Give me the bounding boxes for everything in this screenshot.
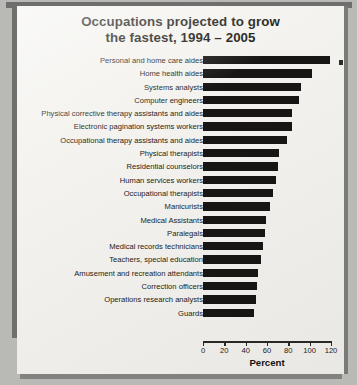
x-axis-label: Percent [203, 357, 331, 368]
bar [203, 122, 292, 130]
category-label: Physical corrective therapy assistants a… [41, 107, 203, 120]
category-label: Home health aides [140, 67, 203, 80]
category-label: Residential counselors [127, 160, 203, 173]
bar-row: Manicurists [17, 200, 344, 213]
bar [203, 309, 254, 317]
bar [203, 295, 256, 303]
category-label: Manicurists [165, 200, 203, 213]
bar-row: Physical corrective therapy assistants a… [17, 107, 344, 120]
x-axis-tick-label: 20 [220, 346, 228, 355]
category-label: Operations research analysts [104, 293, 203, 306]
category-label: Human services workers [120, 174, 203, 187]
bar-row: Operations research analysts [17, 293, 344, 306]
bar [203, 242, 263, 250]
bar-row: Correction officers [17, 280, 344, 293]
bar-row: Medical records technicians [17, 240, 344, 253]
category-label: Paralegals [167, 227, 203, 240]
bar-row: Amusement and recreation attendants [17, 267, 344, 280]
x-axis-tick-label: 100 [303, 346, 316, 355]
x-axis-tick-label: 0 [201, 346, 205, 355]
bar [203, 282, 257, 290]
x-axis-tick-label: 40 [241, 346, 249, 355]
bar [203, 189, 273, 197]
category-label: Guards [178, 307, 203, 320]
bar [203, 269, 258, 277]
bar [203, 162, 278, 170]
category-label: Medical Assistants [141, 214, 203, 227]
bar [203, 229, 265, 237]
bar [203, 149, 279, 157]
bar [203, 96, 299, 104]
chart-card: Occupations projected to grow the fastes… [17, 6, 344, 374]
bar-row: Residential counselors [17, 160, 344, 173]
bar-chart-plot-area: Personal and home care aidesHome health … [17, 54, 344, 346]
bar-row: Paralegals [17, 227, 344, 240]
category-label: Amusement and recreation attendants [74, 267, 203, 280]
category-label: Teachers, special education [109, 253, 203, 266]
bar [203, 109, 292, 117]
bar-row: Human services workers [17, 174, 344, 187]
bar-row: Systems analysts [17, 81, 344, 94]
bar [203, 202, 270, 210]
bar-row: Occupational therapy assistants and aide… [17, 134, 344, 147]
scanned-page-background: Occupations projected to grow the fastes… [0, 0, 357, 385]
bar [203, 255, 261, 263]
x-axis-tick-label: 60 [263, 346, 271, 355]
bar-row: Guards [17, 307, 344, 320]
bar [203, 176, 276, 184]
category-label: Occupational therapists [124, 187, 203, 200]
bar-row: Computer engineers [17, 94, 344, 107]
bar-row: Medical Assistants [17, 214, 344, 227]
x-axis-tick-label: 120 [325, 346, 338, 355]
bar-row: Electronic pagination systems workers [17, 120, 344, 133]
category-label: Medical records technicians [109, 240, 203, 253]
bar [203, 83, 301, 91]
bar-row: Teachers, special education [17, 253, 344, 266]
bar-row: Occupational therapists [17, 187, 344, 200]
chart-title: Occupations projected to grow the fastes… [17, 14, 344, 46]
bar-row: Personal and home care aides [17, 54, 344, 67]
category-label: Physical therapists [140, 147, 203, 160]
category-label: Correction officers [142, 280, 203, 293]
chart-title-line-2: the fastest, 1994 – 2005 [17, 30, 344, 46]
bar-row: Home health aides [17, 67, 344, 80]
bar [203, 69, 312, 77]
bar-row: Physical therapists [17, 147, 344, 160]
bar [203, 136, 287, 144]
category-label: Computer engineers [134, 94, 203, 107]
bar [203, 56, 330, 64]
category-label: Electronic pagination systems workers [74, 120, 203, 133]
category-label: Occupational therapy assistants and aide… [60, 134, 203, 147]
category-label: Systems analysts [144, 81, 203, 94]
bar [203, 216, 266, 224]
chart-title-line-1: Occupations projected to grow [81, 14, 280, 29]
category-label: Personal and home care aides [100, 54, 203, 67]
x-axis-tick-label: 80 [284, 346, 292, 355]
